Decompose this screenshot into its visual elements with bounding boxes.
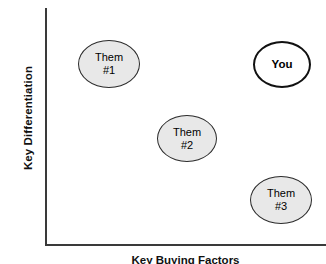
- node-them-2-label-line1: Them: [173, 126, 201, 139]
- node-them-2[interactable]: Them #2: [157, 115, 217, 162]
- x-axis-label: Key Buying Factors: [45, 254, 326, 264]
- node-them-1[interactable]: Them #1: [78, 40, 140, 88]
- y-axis-label: Key Differentiation: [22, 18, 34, 218]
- node-them-1-label-line2: #1: [103, 64, 115, 77]
- x-axis-line: [45, 244, 326, 246]
- node-them-1-label-line1: Them: [95, 51, 123, 64]
- node-them-3-label-line1: Them: [267, 187, 295, 200]
- node-them-2-label-line2: #2: [181, 139, 193, 152]
- node-you-label: You: [272, 58, 293, 72]
- positioning-map-chart: Key Differentiation Key Buying Factors T…: [0, 0, 326, 264]
- y-axis-line: [45, 8, 47, 246]
- node-them-3[interactable]: Them #3: [250, 176, 312, 224]
- node-them-3-label-line2: #3: [275, 200, 287, 213]
- node-you[interactable]: You: [253, 41, 311, 88]
